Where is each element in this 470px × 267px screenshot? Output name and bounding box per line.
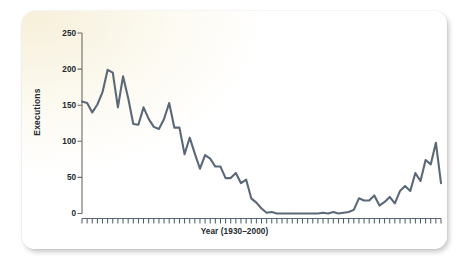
x-axis-ticks (82, 219, 441, 224)
y-axis (78, 33, 83, 214)
executions-data-line (82, 70, 441, 214)
line-chart-plot (22, 11, 447, 249)
chart-card: Executions Year (1930–2000) 250 200 150 … (22, 11, 447, 249)
x-axis (82, 219, 441, 224)
